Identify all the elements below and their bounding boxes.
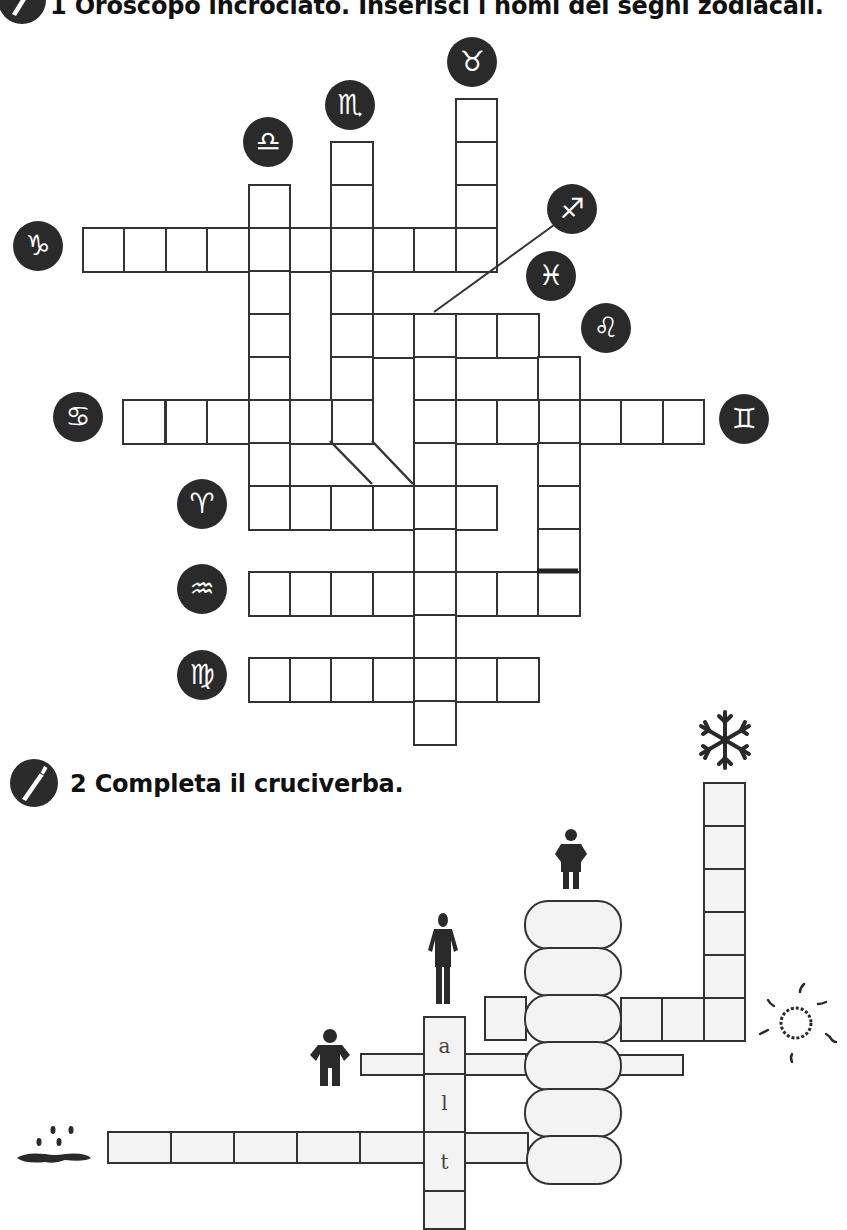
crossword1-cell[interactable] bbox=[413, 442, 457, 488]
crossword1-cell[interactable] bbox=[248, 571, 292, 617]
crossword2-pill-cell[interactable] bbox=[524, 1088, 622, 1138]
crossword1-cell[interactable] bbox=[496, 657, 540, 703]
crossword1-cell[interactable] bbox=[413, 571, 457, 617]
crossword2-cell[interactable] bbox=[484, 996, 527, 1041]
crossword1-cell[interactable] bbox=[413, 356, 457, 402]
crossword1-cell[interactable] bbox=[372, 485, 416, 531]
crossword1-cell[interactable] bbox=[289, 657, 333, 703]
crossword1-cell[interactable] bbox=[455, 313, 499, 359]
crossword1-cell[interactable] bbox=[496, 399, 540, 445]
crossword1-cell[interactable] bbox=[248, 442, 292, 488]
crossword1-cell[interactable] bbox=[413, 614, 457, 660]
crossword1-cell[interactable] bbox=[248, 184, 292, 230]
crossword1-cell[interactable] bbox=[289, 399, 333, 445]
crossword2-cell[interactable] bbox=[107, 1131, 172, 1164]
crossword1-cell[interactable] bbox=[248, 270, 292, 316]
crossword1-cell[interactable] bbox=[455, 98, 499, 144]
crossword1-cell[interactable] bbox=[455, 184, 499, 230]
crossword1-cell[interactable] bbox=[537, 356, 581, 402]
crossword2-cell[interactable] bbox=[703, 825, 746, 870]
crossword1-cell[interactable] bbox=[248, 313, 292, 359]
crossword2-cell[interactable] bbox=[360, 1053, 425, 1076]
crossword2-cell-letter-t[interactable]: t bbox=[423, 1131, 466, 1192]
crossword1-cell[interactable] bbox=[579, 399, 623, 445]
crossword2-cell[interactable] bbox=[359, 1131, 425, 1164]
crossword1-cell[interactable] bbox=[496, 571, 540, 617]
crossword1-cell[interactable] bbox=[537, 442, 581, 488]
crossword1-cell[interactable] bbox=[330, 571, 374, 617]
crossword1-cell[interactable] bbox=[165, 399, 209, 445]
crossword1-cell[interactable] bbox=[455, 657, 499, 703]
crossword1-cell[interactable] bbox=[248, 657, 292, 703]
crossword1-cell[interactable] bbox=[289, 571, 333, 617]
crossword2-cell[interactable] bbox=[703, 997, 746, 1042]
crossword1-cell[interactable] bbox=[372, 657, 416, 703]
crossword1-cell[interactable] bbox=[330, 184, 374, 230]
crossword1-cell[interactable] bbox=[206, 399, 250, 445]
crossword1-cell[interactable] bbox=[248, 227, 292, 273]
crossword1-cell[interactable] bbox=[330, 313, 374, 359]
crossword2-pill-cell[interactable] bbox=[524, 994, 622, 1044]
crossword1-cell[interactable] bbox=[248, 356, 292, 402]
crossword1-cell[interactable] bbox=[413, 700, 457, 746]
crossword2-cell-letter-l[interactable]: l bbox=[423, 1073, 466, 1133]
crossword2-cell[interactable] bbox=[463, 1053, 527, 1076]
crossword2-pill-cell[interactable] bbox=[524, 947, 622, 997]
crossword2-pill-cell[interactable] bbox=[526, 1135, 622, 1185]
crossword1-cell[interactable] bbox=[330, 657, 374, 703]
crossword1-cell[interactable] bbox=[289, 485, 333, 531]
crossword1-cell[interactable] bbox=[123, 227, 167, 273]
crossword1-cell[interactable] bbox=[413, 485, 457, 531]
acquario-sign-icon: ♒ bbox=[177, 564, 227, 614]
crossword2-cell[interactable] bbox=[661, 997, 705, 1042]
capricorno-sign-icon: ♑ bbox=[13, 221, 63, 271]
crossword1-cell[interactable] bbox=[248, 485, 292, 531]
crossword1-cell[interactable] bbox=[82, 227, 126, 273]
crossword1-cell[interactable] bbox=[330, 485, 374, 531]
crossword2-cell-letter-a[interactable]: a bbox=[423, 1016, 466, 1075]
crossword2-pill-cell[interactable] bbox=[524, 900, 622, 950]
crossword1-cell[interactable] bbox=[330, 399, 374, 445]
crossword2-cell[interactable] bbox=[703, 911, 746, 956]
crossword1-cell[interactable] bbox=[496, 313, 540, 359]
crossword2-pill-cell[interactable] bbox=[524, 1041, 622, 1091]
crossword2-cell[interactable] bbox=[703, 782, 746, 827]
crossword1-cell[interactable] bbox=[122, 399, 166, 445]
crossword1-cell[interactable] bbox=[372, 571, 416, 617]
crossword1-cell[interactable] bbox=[330, 141, 374, 187]
crossword1-cell[interactable] bbox=[330, 356, 374, 402]
crossword2-cell[interactable] bbox=[233, 1131, 298, 1164]
crossword1-cell[interactable] bbox=[330, 270, 374, 316]
crossword1-cell[interactable] bbox=[537, 571, 581, 617]
crossword1-cell[interactable] bbox=[372, 227, 416, 273]
crossword1-cell[interactable] bbox=[289, 227, 333, 273]
crossword1-cell[interactable] bbox=[165, 227, 209, 273]
crossword1-cell[interactable] bbox=[455, 485, 499, 531]
crossword1-cell[interactable] bbox=[537, 485, 581, 531]
crossword2-cell[interactable] bbox=[463, 1132, 529, 1164]
crossword2-cell[interactable] bbox=[170, 1131, 235, 1164]
crossword1-cell[interactable] bbox=[537, 528, 581, 574]
crossword1-cell[interactable] bbox=[372, 313, 416, 359]
crossword2-cell[interactable] bbox=[703, 868, 746, 913]
crossword1-cell[interactable] bbox=[620, 399, 664, 445]
crossword2-cell[interactable] bbox=[618, 1054, 684, 1076]
crossword1-cell[interactable] bbox=[455, 399, 499, 445]
crossword1-cell[interactable] bbox=[413, 657, 457, 703]
crossword1-cell[interactable] bbox=[455, 141, 499, 187]
crossword1-cell[interactable] bbox=[455, 571, 499, 617]
crossword2-cell[interactable] bbox=[423, 1190, 466, 1230]
crossword1-cell[interactable] bbox=[537, 399, 581, 445]
crossword2-cell[interactable] bbox=[703, 954, 746, 999]
crossword1-cell[interactable] bbox=[330, 227, 374, 273]
crossword1-cell[interactable] bbox=[413, 399, 457, 445]
crossword1-cell[interactable] bbox=[206, 227, 250, 273]
crossword1-cell[interactable] bbox=[413, 528, 457, 574]
crossword2-cell[interactable] bbox=[620, 997, 663, 1042]
crossword1-cell[interactable] bbox=[413, 313, 457, 359]
crossword1-cell[interactable] bbox=[662, 399, 706, 445]
crossword1-cell[interactable] bbox=[455, 227, 499, 273]
crossword1-cell[interactable] bbox=[413, 227, 457, 273]
crossword1-cell[interactable] bbox=[248, 399, 292, 445]
crossword2-cell[interactable] bbox=[296, 1131, 361, 1164]
